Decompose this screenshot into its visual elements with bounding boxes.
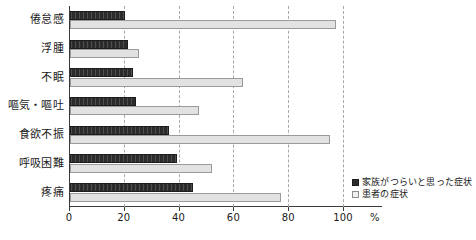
x-tick-label: 0: [66, 212, 73, 223]
tick-mark-60: [233, 207, 234, 211]
chart-legend: 家族がつらいと思った症状患者の症状: [352, 176, 472, 200]
bar-family: [70, 68, 133, 77]
tick-mark-80: [288, 207, 289, 211]
bar-family: [70, 97, 136, 106]
bar-patient: [70, 49, 139, 58]
legend-swatch-icon: [352, 191, 359, 198]
tick-mark-40: [179, 207, 180, 211]
bar-patient: [70, 193, 281, 202]
legend-item: 家族がつらいと思った症状: [352, 176, 472, 188]
bar-family: [70, 183, 193, 192]
legend-item: 患者の症状: [352, 188, 472, 200]
y-axis-category-label: 浮腫: [0, 43, 64, 54]
bar-family: [70, 154, 177, 163]
y-axis-category-label: 疼痛: [0, 187, 64, 198]
y-axis-category-label: 呼吸困難: [0, 158, 64, 169]
bar-patient: [70, 135, 330, 144]
bar-family: [70, 11, 125, 20]
x-tick-label: 80: [282, 212, 295, 223]
x-axis-unit-label: %: [370, 212, 380, 223]
chart-row: 倦怠感: [0, 6, 476, 35]
tick-mark-100: [343, 207, 344, 211]
tick-mark-0: [69, 207, 70, 211]
bar-patient: [70, 106, 199, 115]
chart-row: 呼吸困難: [0, 150, 476, 179]
bar-chart: 020406080100 % 倦怠感浮腫不眠嘔気・嘔吐食欲不振呼吸困難疼痛 家族…: [0, 0, 476, 240]
y-axis-category-label: 倦怠感: [0, 14, 64, 25]
chart-row: 浮腫: [0, 35, 476, 64]
legend-label: 家族がつらいと思った症状: [362, 176, 472, 188]
tick-mark-20: [124, 207, 125, 211]
x-tick-label: 40: [172, 212, 185, 223]
bar-patient: [70, 164, 212, 173]
bar-patient: [70, 78, 243, 87]
chart-row: 食欲不振: [0, 121, 476, 150]
x-tick-label: 20: [117, 212, 130, 223]
chart-row: 嘔気・嘔吐: [0, 92, 476, 121]
chart-row: 不眠: [0, 63, 476, 92]
bar-family: [70, 40, 128, 49]
legend-swatch-icon: [352, 179, 359, 186]
legend-label: 患者の症状: [362, 188, 408, 200]
x-tick-label: 100: [333, 212, 353, 223]
y-axis-category-label: 嘔気・嘔吐: [0, 100, 64, 111]
x-tick-label: 60: [227, 212, 240, 223]
y-axis-category-label: 食欲不振: [0, 129, 64, 140]
bar-family: [70, 126, 169, 135]
y-axis-category-label: 不眠: [0, 72, 64, 83]
bar-patient: [70, 20, 336, 29]
